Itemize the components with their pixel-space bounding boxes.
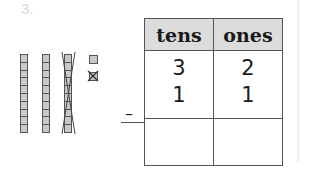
minuend-tens: 3 [145, 58, 213, 79]
problem-number: 3. [21, 0, 34, 17]
tens-column-digits: 3 1 [145, 51, 214, 119]
place-value-table: tens ones 3 1 2 1 [144, 18, 283, 166]
cross-out-mark [87, 70, 99, 82]
header-tens: tens [145, 19, 214, 51]
page-edge-divider [297, 0, 299, 162]
minuend-ones: 2 [214, 58, 282, 79]
header-ones: ones [214, 19, 283, 51]
tens-rod [42, 54, 50, 133]
subtraction-rule [121, 122, 145, 123]
ones-column-digits: 2 1 [214, 51, 283, 119]
minus-sign: – [125, 104, 133, 123]
tens-rod [20, 54, 28, 133]
subtrahend-ones: 1 [214, 85, 282, 106]
ones-cube [89, 55, 98, 64]
answer-tens-cell[interactable] [145, 119, 214, 166]
answer-ones-cell[interactable] [214, 119, 283, 166]
cross-out-mark [60, 52, 78, 134]
subtrahend-tens: 1 [145, 85, 213, 106]
